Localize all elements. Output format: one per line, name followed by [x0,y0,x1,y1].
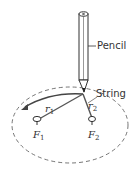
arc-arrowhead-icon [21,104,28,110]
pencil-icon [79,12,88,93]
f2-label: F2 [87,129,99,142]
f1-label: F1 [32,129,44,142]
ellipse-diagram: Pencil String r1 r2 F1 F2 [0,0,138,170]
string-label: String [96,88,126,99]
pencil-label: Pencil [97,40,126,51]
pin-f1-icon [33,116,41,125]
pin-f2-icon [89,116,96,125]
